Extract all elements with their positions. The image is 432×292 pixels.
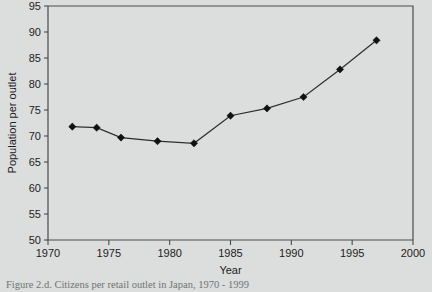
y-tick-label: 95 — [29, 0, 41, 12]
x-axis-title: Year — [219, 264, 242, 276]
figure-container: 5055606570758085909519701975198019851990… — [0, 0, 432, 292]
y-tick-label: 60 — [29, 182, 41, 194]
x-tick-label: 2000 — [401, 247, 425, 259]
data-point-marker — [69, 123, 76, 130]
figure-caption: Figure 2.d. Citizens per retail outlet i… — [6, 279, 426, 290]
y-axis-title: Population per outlet — [6, 73, 18, 174]
series-line-population-per-outlet — [72, 40, 376, 143]
y-tick-label: 75 — [29, 104, 41, 116]
x-tick-label: 1995 — [340, 247, 364, 259]
data-point-marker — [93, 124, 100, 131]
x-tick-label: 1975 — [97, 247, 121, 259]
data-point-marker — [263, 105, 270, 112]
x-tick-label: 1980 — [157, 247, 181, 259]
y-tick-label: 80 — [29, 78, 41, 90]
y-tick-label: 85 — [29, 52, 41, 64]
data-point-marker — [154, 138, 161, 145]
line-chart: 5055606570758085909519701975198019851990… — [0, 0, 432, 292]
data-point-marker — [117, 134, 124, 141]
x-tick-label: 1970 — [36, 247, 60, 259]
y-tick-label: 70 — [29, 130, 41, 142]
y-tick-label: 65 — [29, 156, 41, 168]
y-tick-label: 50 — [29, 234, 41, 246]
chart-frame-border — [48, 6, 413, 240]
x-tick-label: 1990 — [279, 247, 303, 259]
y-tick-label: 90 — [29, 26, 41, 38]
x-tick-label: 1985 — [218, 247, 242, 259]
y-tick-label: 55 — [29, 208, 41, 220]
chart-axes — [48, 6, 413, 240]
